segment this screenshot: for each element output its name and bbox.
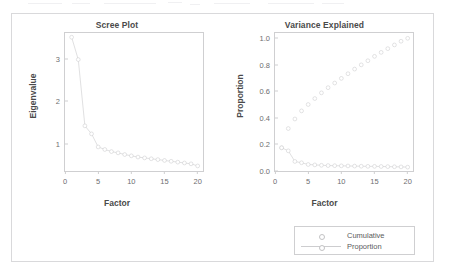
x-tick-label: 10 <box>127 171 135 186</box>
y-tick-label: 2 <box>56 97 65 106</box>
data-point-marker <box>373 54 377 58</box>
variance-explained-canvas <box>275 33 413 171</box>
data-point-marker <box>393 43 397 47</box>
data-point-marker <box>326 164 330 168</box>
data-point-marker <box>306 163 310 167</box>
data-point-marker <box>379 165 383 169</box>
figure-panel: Scree Plot Eigenvalue 12305101520 Factor… <box>11 13 434 262</box>
data-point-marker <box>176 160 180 164</box>
data-point-marker <box>320 163 324 167</box>
legend-label-proportion: Proportion <box>347 242 382 251</box>
data-point-marker <box>366 59 370 63</box>
x-tick-label: 5 <box>306 171 310 186</box>
data-point-marker <box>313 163 317 167</box>
y-tick-label: 1.0 <box>260 34 275 43</box>
y-tick-label: 0.4 <box>260 113 275 122</box>
data-point-marker <box>339 164 343 168</box>
data-point-marker <box>406 165 410 169</box>
data-point-marker <box>399 39 403 43</box>
data-point-marker <box>393 165 397 169</box>
data-point-marker <box>183 161 187 165</box>
data-point-marker <box>333 164 337 168</box>
variance-explained-title: Variance Explained <box>227 20 422 30</box>
data-point-marker <box>399 165 403 169</box>
variance-explained-frame: 0.00.20.40.60.81.005101520 <box>274 32 414 172</box>
data-point-marker <box>339 76 343 80</box>
data-point-marker <box>346 164 350 168</box>
data-point-marker <box>346 72 350 76</box>
y-tick-label: 3 <box>56 55 65 64</box>
data-point-marker <box>386 47 390 51</box>
chart-legend: Cumulative Proportion <box>294 226 415 255</box>
scree-plot-canvas <box>65 33 203 171</box>
scan-artifacts <box>0 0 449 12</box>
data-point-marker <box>76 58 80 62</box>
data-point-marker <box>163 159 167 163</box>
data-point-marker <box>116 151 120 155</box>
data-point-marker <box>136 155 140 159</box>
data-point-marker <box>189 162 193 166</box>
data-point-marker <box>313 97 317 101</box>
data-point-marker <box>386 165 390 169</box>
data-point-marker <box>196 164 200 168</box>
data-point-marker <box>300 161 304 165</box>
data-point-marker <box>123 153 127 157</box>
scree-plot: Scree Plot Eigenvalue 12305101520 Factor <box>22 16 212 216</box>
y-tick-label: 0.6 <box>260 87 275 96</box>
scree-plot-title: Scree Plot <box>22 20 212 30</box>
data-point-marker <box>143 156 147 160</box>
data-point-marker <box>306 103 310 107</box>
data-point-marker <box>70 35 74 39</box>
data-point-marker <box>286 127 290 131</box>
data-point-marker <box>293 160 297 164</box>
data-point-marker <box>353 164 357 168</box>
y-tick-label: 1 <box>56 139 65 148</box>
data-point-marker <box>373 164 377 168</box>
variance-explained-y-axis-label: Proportion <box>235 61 245 131</box>
y-tick-label: 0.8 <box>260 60 275 69</box>
x-tick-label: 20 <box>404 171 412 186</box>
y-tick-label: 0.2 <box>260 140 275 149</box>
data-point-marker <box>129 154 133 158</box>
data-point-marker <box>359 164 363 168</box>
data-point-marker <box>300 109 304 113</box>
x-tick-label: 10 <box>337 171 345 186</box>
data-point-marker <box>149 157 153 161</box>
data-point-marker <box>103 148 107 152</box>
scree-plot-x-axis-label: Factor <box>22 198 212 208</box>
x-tick-label: 20 <box>194 171 202 186</box>
scree-plot-frame: 12305101520 <box>64 32 204 172</box>
data-point-marker <box>156 158 160 162</box>
scree-plot-y-axis-label: Eigenvalue <box>28 61 38 131</box>
legend-label-cumulative: Cumulative <box>347 231 385 240</box>
variance-explained-plot: Variance Explained Proportion 0.00.20.40… <box>227 16 422 216</box>
data-point-marker <box>326 86 330 90</box>
data-point-marker <box>293 117 297 121</box>
x-tick-label: 0 <box>63 171 67 186</box>
legend-marker-cumulative-icon <box>295 230 347 241</box>
data-point-marker <box>169 159 173 163</box>
data-point-marker <box>359 63 363 67</box>
data-point-marker <box>286 149 290 153</box>
data-point-marker <box>110 150 114 154</box>
data-point-marker <box>333 81 337 85</box>
data-point-marker <box>366 164 370 168</box>
x-tick-label: 15 <box>160 171 168 186</box>
x-tick-label: 5 <box>96 171 100 186</box>
data-point-marker <box>96 145 100 149</box>
legend-item-proportion: Proportion <box>295 241 414 252</box>
x-tick-label: 0 <box>273 171 277 186</box>
variance-explained-x-axis-label: Factor <box>227 198 422 208</box>
data-point-marker <box>90 132 94 136</box>
x-tick-label: 15 <box>370 171 378 186</box>
legend-marker-proportion-icon <box>295 241 347 252</box>
data-point-marker <box>83 124 87 128</box>
series-line <box>72 37 198 166</box>
data-point-marker <box>379 50 383 54</box>
data-point-marker <box>406 36 410 40</box>
data-point-marker <box>353 67 357 71</box>
data-point-marker <box>320 91 324 95</box>
data-point-marker <box>280 146 284 150</box>
legend-item-cumulative: Cumulative <box>295 230 414 241</box>
